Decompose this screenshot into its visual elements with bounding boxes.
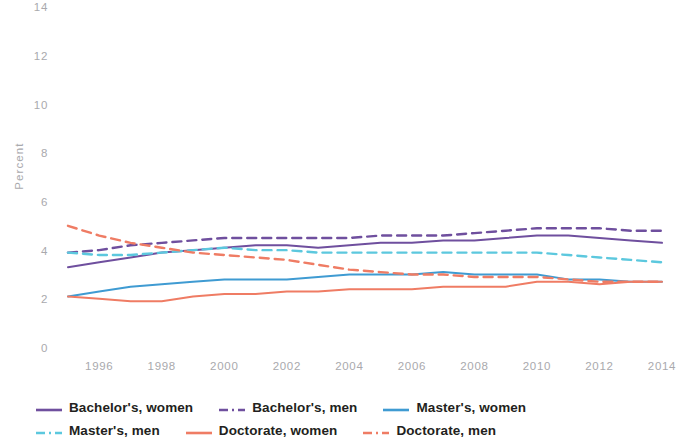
legend-line-swatch-icon (186, 425, 212, 437)
legend-label: Bachelor's, women (69, 400, 193, 415)
legend-row: Bachelor's, womenBachelor's, menMaster's… (36, 396, 666, 419)
legend-item[interactable]: Doctorate, men (363, 423, 496, 438)
series-line (68, 228, 662, 252)
plot-area (0, 0, 679, 446)
legend-label: Doctorate, women (219, 423, 338, 438)
series-line (68, 272, 662, 296)
legend-line-swatch-icon (363, 425, 389, 437)
legend-item[interactable]: Master's, men (36, 423, 160, 438)
legend-item[interactable]: Bachelor's, women (36, 400, 193, 415)
legend-line-swatch-icon (383, 402, 409, 414)
line-chart: Percent 02468101214 19961998200020022004… (0, 0, 679, 446)
legend-line-swatch-icon (36, 402, 62, 414)
legend-label: Master's, women (416, 400, 526, 415)
legend-label: Master's, men (69, 423, 160, 438)
legend-item[interactable]: Bachelor's, men (219, 400, 357, 415)
chart-legend: Bachelor's, womenBachelor's, menMaster's… (36, 396, 666, 442)
legend-label: Bachelor's, men (252, 400, 357, 415)
legend-row: Master's, menDoctorate, womenDoctorate, … (36, 419, 666, 442)
legend-line-swatch-icon (219, 402, 245, 414)
legend-item[interactable]: Master's, women (383, 400, 526, 415)
legend-line-swatch-icon (36, 425, 62, 437)
legend-item[interactable]: Doctorate, women (186, 423, 338, 438)
series-line (68, 248, 662, 263)
series-line (68, 236, 662, 268)
legend-label: Doctorate, men (396, 423, 496, 438)
